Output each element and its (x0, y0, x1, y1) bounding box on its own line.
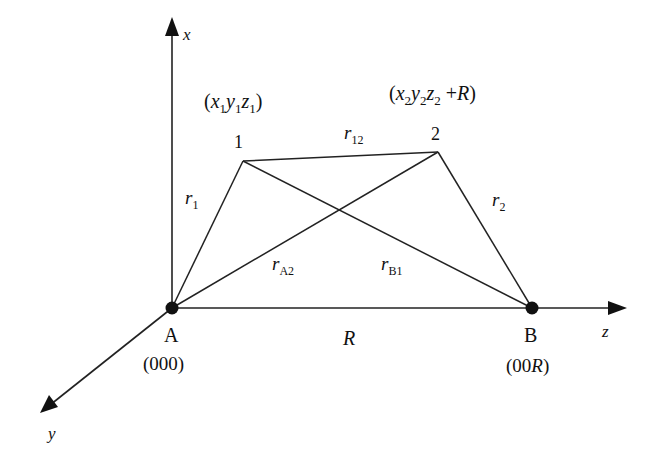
electron-2-coords: (x2y2z2 +R) (389, 82, 476, 108)
nucleus-b-coords: (00R) (506, 355, 549, 377)
x-axis-label: x (182, 25, 191, 44)
line-r1 (172, 161, 243, 308)
electron-2-label: 2 (431, 124, 440, 144)
y-axis-arrow-icon (40, 395, 58, 413)
z-axis-label: z (601, 322, 609, 341)
nucleus-a-dot (166, 302, 179, 315)
rA2-label: rA2 (272, 253, 294, 278)
h2-coordinate-diagram: x z y (x1y1z1) (x2y2z2 +R) 1 2 r1 r12 r2… (0, 0, 656, 459)
electron-1-coords: (x1y1z1) (204, 90, 262, 116)
distance-lines (172, 152, 532, 308)
r12-label: r12 (344, 122, 363, 147)
nucleus-b-dot (526, 302, 539, 315)
nucleus-a-coords: (000) (143, 353, 184, 375)
line-rA2 (172, 152, 438, 308)
electron-1-label: 1 (234, 132, 243, 152)
nucleus-b-label: B (524, 324, 537, 346)
r2-label: r2 (492, 189, 505, 214)
internuclear-distance-label: R (342, 327, 355, 349)
z-axis-arrow-icon (608, 301, 627, 315)
x-axis-arrow-icon (165, 17, 179, 36)
axes (40, 17, 627, 413)
line-rB1 (243, 161, 532, 308)
y-axis-label: y (46, 424, 56, 443)
nucleus-a-label: A (164, 324, 179, 346)
r1-label: r1 (185, 187, 198, 212)
rB1-label: rB1 (381, 253, 402, 278)
line-r12 (243, 152, 438, 161)
